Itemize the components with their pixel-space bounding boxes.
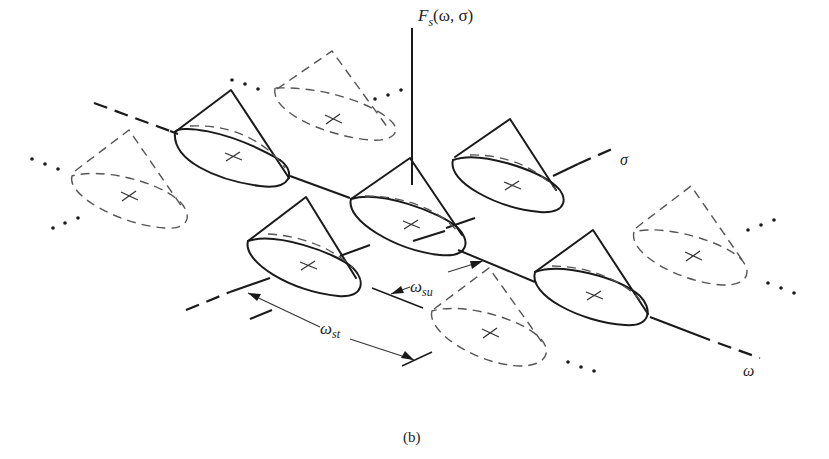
- cone-left-top: [175, 90, 289, 187]
- sigma-axis-label: σ: [620, 151, 629, 168]
- cone-right-upper: [453, 119, 564, 212]
- lattice-links: [250, 245, 370, 319]
- omega-axis: [186, 231, 760, 358]
- omega-st-label: ωst: [320, 319, 341, 341]
- vertical-axis-label: Fs(ω, σ): [417, 6, 473, 29]
- cone-bottom-dashed: [432, 268, 547, 366]
- cone-left-dashed: [72, 130, 188, 228]
- omega-su-label: ωsu: [410, 277, 433, 299]
- cone-top-dashed: [275, 51, 396, 140]
- cone-right-lower: [534, 230, 648, 325]
- cone-center: [351, 158, 466, 255]
- figure-caption: (b): [403, 429, 421, 446]
- omega-axis-label: ω: [743, 362, 754, 379]
- cone-far-right-dashed: [634, 186, 747, 285]
- spectrum-replica-diagram: Fs(ω, σ) σ ω ωst ωsu (b): [0, 0, 829, 459]
- cone-left-lower: [248, 197, 361, 296]
